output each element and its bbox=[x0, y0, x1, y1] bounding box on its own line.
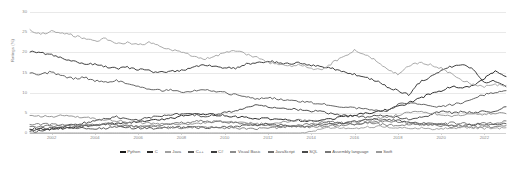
legend-label: Java bbox=[172, 150, 181, 154]
x-tick-label: 2012 bbox=[263, 136, 272, 140]
x-tick-mark bbox=[441, 133, 442, 135]
legend-item[interactable]: JavaScript bbox=[268, 150, 295, 154]
plot-area: 302520151050 200220042006200820102012201… bbox=[30, 12, 506, 133]
series-line bbox=[30, 71, 506, 131]
legend-item[interactable]: Assembly language bbox=[325, 150, 369, 154]
legend-label: C++ bbox=[196, 150, 204, 154]
y-tick-label: 25 bbox=[22, 30, 27, 34]
y-tick-label: 20 bbox=[22, 50, 27, 54]
chart-legend: PythonCJavaC++C#Visual BasicJavaScriptSQ… bbox=[0, 150, 512, 154]
legend-item[interactable]: C# bbox=[211, 150, 224, 154]
x-tick-mark bbox=[355, 133, 356, 135]
legend-label: SQL bbox=[309, 150, 317, 154]
y-tick-label: 15 bbox=[22, 70, 27, 74]
legend-label: Assembly language bbox=[332, 150, 369, 154]
x-tick-label: 2002 bbox=[47, 136, 56, 140]
legend-swatch bbox=[230, 151, 236, 152]
x-tick-label: 2008 bbox=[177, 136, 186, 140]
legend-item[interactable]: SQL bbox=[302, 150, 318, 154]
x-tick-label: 2020 bbox=[436, 136, 445, 140]
legend-label: C# bbox=[218, 150, 223, 154]
legend-label: Visual Basic bbox=[238, 150, 261, 154]
legend-swatch bbox=[302, 151, 308, 152]
series-line bbox=[30, 51, 506, 96]
legend-item[interactable]: Swift bbox=[376, 150, 393, 154]
legend-swatch bbox=[147, 151, 153, 152]
y-axis-title: Ratings (%) bbox=[10, 21, 15, 81]
legend-label: C bbox=[155, 150, 158, 154]
y-tick-label: 0 bbox=[25, 131, 27, 135]
legend-item[interactable]: Python bbox=[120, 150, 141, 154]
x-tick-mark bbox=[398, 133, 399, 135]
y-tick-label: 30 bbox=[22, 10, 27, 14]
series-lines bbox=[30, 12, 506, 133]
series-line bbox=[30, 71, 506, 111]
legend-item[interactable]: Java bbox=[165, 150, 181, 154]
legend-swatch bbox=[325, 151, 331, 152]
x-tick-label: 2010 bbox=[220, 136, 229, 140]
x-tick-label: 2016 bbox=[350, 136, 359, 140]
legend-item[interactable]: C bbox=[147, 150, 158, 154]
legend-label: JavaScript bbox=[275, 150, 295, 154]
legend-swatch bbox=[188, 151, 194, 152]
x-tick-label: 2014 bbox=[307, 136, 316, 140]
x-tick-label: 2022 bbox=[480, 136, 489, 140]
x-tick-label: 2018 bbox=[393, 136, 402, 140]
legend-label: Swift bbox=[383, 150, 392, 154]
legend-swatch bbox=[376, 151, 382, 152]
x-tick-label: 2006 bbox=[134, 136, 143, 140]
x-tick-label: 2004 bbox=[90, 136, 99, 140]
legend-swatch bbox=[211, 151, 217, 152]
x-tick-mark bbox=[311, 133, 312, 135]
legend-swatch bbox=[120, 151, 126, 152]
legend-label: Python bbox=[127, 150, 140, 154]
y-tick-label: 5 bbox=[25, 111, 27, 115]
y-tick-label: 10 bbox=[22, 91, 27, 95]
legend-item[interactable]: C++ bbox=[188, 150, 203, 154]
legend-swatch bbox=[165, 151, 171, 152]
x-tick-mark bbox=[484, 133, 485, 135]
chart-container: Ratings (%) 302520151050 200220042006200… bbox=[0, 0, 512, 170]
series-line bbox=[30, 30, 506, 88]
legend-swatch bbox=[268, 151, 274, 152]
legend-item[interactable]: Visual Basic bbox=[230, 150, 260, 154]
